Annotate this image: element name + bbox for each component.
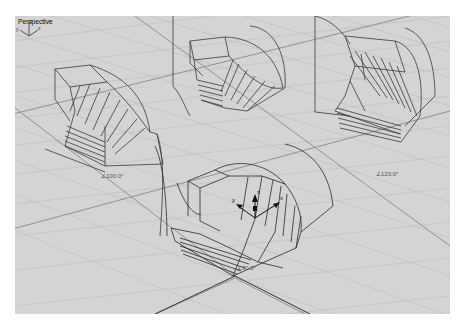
angle-label-right: ∠120.0° bbox=[376, 170, 398, 177]
left-bend-object[interactable] bbox=[45, 65, 163, 236]
angle-label-left: ∠100.0° bbox=[101, 172, 123, 179]
svg-text:y: y bbox=[16, 26, 19, 32]
world-axis-icon: z y x bbox=[15, 16, 43, 42]
back-bend-object[interactable] bbox=[173, 16, 285, 116]
svg-text:y: y bbox=[232, 197, 235, 203]
svg-text:x: x bbox=[280, 195, 283, 201]
perspective-viewport[interactable]: z y x Perspective ∠100.0° ∠120.0° ∠90.0°… bbox=[15, 16, 450, 314]
angle-label-center: ∠90.0° bbox=[237, 264, 256, 271]
svg-text:z: z bbox=[257, 189, 260, 195]
svg-text:x: x bbox=[38, 25, 41, 31]
svg-text:z: z bbox=[30, 18, 33, 24]
scene-canvas[interactable]: z y x bbox=[15, 16, 450, 314]
